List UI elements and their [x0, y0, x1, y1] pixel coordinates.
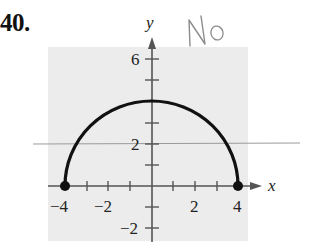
x-tick-label-neg4: −4 — [50, 197, 69, 216]
x-axis-arrow-icon — [250, 182, 262, 190]
endpoint-right — [233, 181, 243, 191]
handwritten-note — [189, 16, 225, 46]
y-tick-label-6: 6 — [131, 50, 140, 69]
x-tick-label-2: 2 — [190, 197, 199, 216]
y-axis-label: y — [144, 13, 154, 32]
x-tick-label-4: 4 — [233, 197, 242, 216]
y-axis-arrow-icon — [148, 37, 156, 49]
endpoint-left — [60, 181, 70, 191]
y-tick-label-2: 2 — [131, 135, 140, 154]
x-tick-label-neg2: −2 — [94, 197, 112, 216]
y-tick-label-neg2: −2 — [120, 219, 138, 238]
x-axis-label: x — [267, 176, 276, 195]
semicircle-graph: −4 −2 2 4 6 2 −2 x y — [0, 0, 311, 251]
